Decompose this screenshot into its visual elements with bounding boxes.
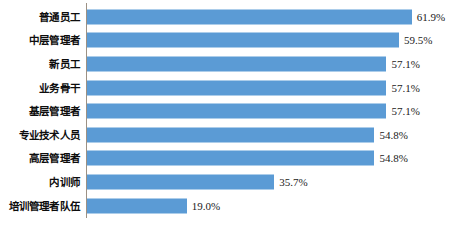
bar-value-label: 35.7% (279, 176, 307, 187)
category-label: 高层管理者 (29, 153, 80, 164)
bar (87, 151, 374, 166)
plot-area: 普通员工61.9%中层管理者59.5%新员工57.1%业务骨干57.1%基层管理… (0, 0, 454, 226)
bar (87, 56, 386, 71)
category-label: 中层管理者 (29, 35, 80, 46)
bar-track (87, 151, 374, 166)
category-label: 培训管理者队伍 (9, 200, 80, 211)
bar-row: 新员工57.1% (0, 52, 454, 76)
bar (87, 9, 412, 24)
bar-row: 高层管理者54.8% (0, 147, 454, 171)
bar-track (87, 33, 399, 48)
bar (87, 127, 374, 142)
bar-value-label: 19.0% (192, 200, 220, 211)
category-label: 业务骨干 (39, 82, 80, 93)
bar-row: 基层管理者57.1% (0, 99, 454, 123)
bar-track (87, 174, 274, 189)
category-label: 专业技术人员 (19, 130, 80, 141)
bar-row: 普通员工61.9% (0, 5, 454, 29)
bar-value-label: 61.9% (417, 11, 445, 22)
horizontal-bar-chart: 普通员工61.9%中层管理者59.5%新员工57.1%业务骨干57.1%基层管理… (0, 0, 454, 226)
bar-value-label: 57.1% (391, 82, 419, 93)
category-label: 内训师 (49, 177, 80, 188)
bar-value-label: 57.1% (391, 106, 419, 117)
bar (87, 174, 274, 189)
category-label: 普通员工 (39, 12, 80, 23)
bar (87, 33, 399, 48)
bar-track (87, 9, 412, 24)
bar-track (87, 104, 386, 119)
bar (87, 198, 187, 213)
bar-row: 内训师35.7% (0, 170, 454, 194)
bar-value-label: 54.8% (379, 129, 407, 140)
bar-track (87, 127, 374, 142)
bar-row: 中层管理者59.5% (0, 29, 454, 53)
bar-row: 培训管理者队伍19.0% (0, 194, 454, 218)
category-label: 基层管理者 (29, 106, 80, 117)
category-label: 新员工 (49, 59, 80, 70)
bar (87, 104, 386, 119)
bar-value-label: 59.5% (404, 35, 432, 46)
bar-row: 业务骨干57.1% (0, 76, 454, 100)
bar-track (87, 198, 187, 213)
bar (87, 80, 386, 95)
bar-row: 专业技术人员54.8% (0, 123, 454, 147)
bar-track (87, 80, 386, 95)
bar-track (87, 56, 386, 71)
bar-value-label: 57.1% (391, 58, 419, 69)
bar-value-label: 54.8% (379, 153, 407, 164)
